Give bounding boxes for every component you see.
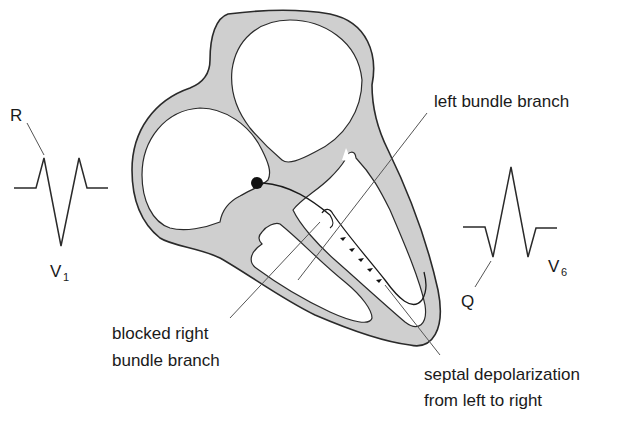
q-wave-label: Q bbox=[461, 292, 474, 311]
v6-label: V bbox=[548, 257, 560, 276]
av-node-dot bbox=[251, 177, 263, 189]
ecg-v1-trace bbox=[14, 158, 108, 246]
left-bundle-branch-label: left bundle branch bbox=[434, 92, 569, 111]
septal-label-line2: from left to right bbox=[424, 391, 542, 410]
heart bbox=[132, 10, 440, 346]
r-wave-label: R bbox=[10, 106, 22, 125]
heart-conduction-diagram: R V 1 Q V 6 left bundle branch blocked r… bbox=[0, 0, 617, 421]
v1-label: V bbox=[50, 262, 62, 281]
ecg-v6: Q V 6 bbox=[461, 167, 567, 311]
septal-label-line1: septal depolarization bbox=[424, 365, 580, 384]
diagram-svg: R V 1 Q V 6 left bundle branch blocked r… bbox=[0, 0, 617, 421]
ecg-v1-r-pointer bbox=[27, 123, 44, 155]
ecg-v1: R V 1 bbox=[10, 106, 108, 283]
v1-subscript: 1 bbox=[63, 271, 69, 283]
blocked-right-label-line1: blocked right bbox=[112, 324, 209, 343]
v6-subscript: 6 bbox=[561, 266, 567, 278]
blocked-right-label-line2: bundle branch bbox=[112, 351, 220, 370]
ecg-v6-trace bbox=[463, 167, 557, 257]
ecg-v6-q-pointer bbox=[475, 261, 491, 287]
